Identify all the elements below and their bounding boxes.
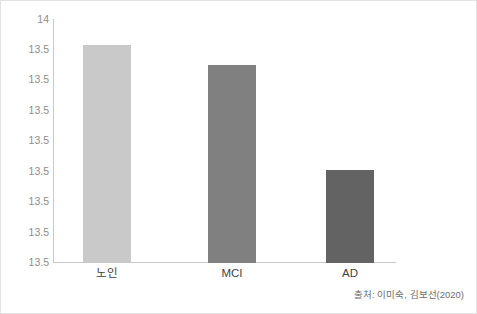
source-note: 출처: 이미숙, 김보선(2020) bbox=[354, 287, 464, 301]
x-axis-label-노인: 노인 bbox=[67, 267, 147, 281]
y-axis-tick-label: 14 bbox=[5, 14, 49, 25]
y-axis-tick-label: 13.5 bbox=[5, 166, 49, 177]
y-axis-tick-label: 13.5 bbox=[5, 227, 49, 238]
bar-chart-figure: 1413.513.513.513.513.513.513.513.5 노인MCI… bbox=[0, 0, 477, 314]
y-axis-tick-label: 13.5 bbox=[5, 44, 49, 55]
y-axis-tick-label: 13.5 bbox=[5, 257, 49, 268]
x-axis-label-MCI: MCI bbox=[192, 267, 272, 281]
y-axis-tick-label: 13.5 bbox=[5, 135, 49, 146]
y-axis-tick-label: 13.5 bbox=[5, 196, 49, 207]
y-axis-tick-label: 13.5 bbox=[5, 74, 49, 85]
bar-AD bbox=[326, 170, 374, 263]
y-axis-tick-label: 13.5 bbox=[5, 105, 49, 116]
bar-노인 bbox=[83, 45, 131, 263]
plot-area bbox=[53, 19, 396, 263]
bar-MCI bbox=[208, 65, 256, 263]
y-axis-tick-labels: 1413.513.513.513.513.513.513.513.5 bbox=[1, 1, 49, 314]
x-axis-label-AD: AD bbox=[310, 267, 390, 281]
